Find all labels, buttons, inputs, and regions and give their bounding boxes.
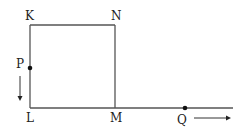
square-klmn [30,25,115,108]
label-l: L [26,111,34,125]
arrow-right-icon [194,116,231,121]
label-p: P [16,57,24,71]
label-n: N [111,9,122,23]
diagram: K N P L M Q [0,0,248,131]
point-q [183,106,188,111]
label-k: K [25,9,35,23]
point-p [28,66,33,71]
label-m: M [110,111,122,125]
arrow-down-icon [18,76,23,101]
label-q: Q [177,113,187,127]
